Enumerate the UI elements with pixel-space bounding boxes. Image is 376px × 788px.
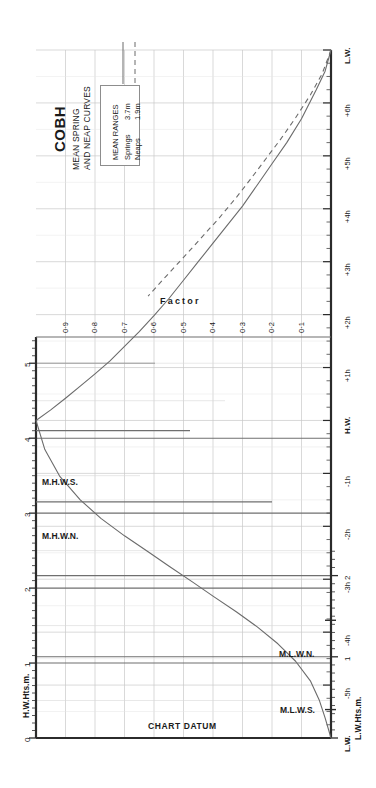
chart-datum-label: CHART DATUM — [148, 722, 217, 731]
left-height-tick-4: 4 — [24, 438, 32, 442]
marker-label-mlwn: M.L.W.N. — [279, 650, 314, 659]
factor-tick-08: 0·8 — [91, 322, 99, 333]
marker-label-mhws: M.H.W.S. — [42, 478, 78, 487]
right-height-tick-0: 0 — [344, 738, 352, 742]
page-title: COBH — [52, 106, 67, 152]
left-height-tick-5: 5 — [24, 363, 32, 367]
right-height-tick-2: 2 — [344, 575, 352, 579]
tidal-curve-diagram: COBH MEAN SPRING AND NEAP CURVES MEAN RA… — [0, 0, 376, 788]
factor-tick-09: 0·9 — [62, 322, 70, 333]
factor-axis-title: Factor — [160, 297, 201, 306]
factor-tick-01: 0·1 — [298, 322, 306, 333]
time-label--4h: -4h — [344, 635, 352, 646]
factor-tick-03: 0·3 — [239, 322, 247, 333]
time-label-+4h: +4h — [344, 210, 352, 223]
legend-row-springs-name: Springs — [124, 135, 132, 160]
subtitle-line-1: MEAN SPRING — [72, 108, 81, 170]
height-marker-lines — [36, 431, 336, 710]
time-label-+6h: +6h — [344, 104, 352, 117]
subtitle-line-2: AND NEAP CURVES — [83, 86, 92, 170]
left-height-tick-3: 3 — [24, 513, 32, 517]
right-axis-title: L.W.Hts.m. — [354, 697, 363, 740]
left-axis-title: H.W.Hts.m. — [22, 674, 31, 718]
factor-tick-02: 0·2 — [268, 322, 276, 333]
right-height-tick-1: 1 — [344, 656, 352, 660]
marker-label-mlws: M.L.W.S. — [280, 706, 315, 715]
time-label-+2h: +2h — [344, 316, 352, 329]
time-label-hw: H.W. — [344, 417, 352, 434]
time-label-+3h: +3h — [344, 263, 352, 276]
factor-tick-07: 0·7 — [121, 322, 129, 333]
legend-title: MEAN RANGES — [112, 105, 120, 160]
time-label-+5h: +5h — [344, 157, 352, 170]
left-height-tick-2: 2 — [24, 588, 32, 592]
legend-row-neaps-name: Neaps — [134, 138, 142, 160]
left-height-tick-0: 0 — [24, 738, 32, 742]
factor-tick-06: 0·6 — [150, 322, 158, 333]
time-label-+1h: +1h — [344, 369, 352, 382]
legend-row-neaps-value: 1.9m — [134, 103, 142, 120]
time-label--5h: -5h — [344, 688, 352, 699]
time-label-lw: L.W. — [344, 48, 352, 64]
left-height-tick-1: 1 — [24, 663, 32, 667]
factor-tick-04: 0·4 — [209, 322, 217, 333]
legend-sample-lines — [115, 40, 145, 86]
time-label--2h: -2h — [344, 529, 352, 540]
factor-tick-05: 0·5 — [180, 322, 188, 333]
marker-label-mhwn: M.H.W.N. — [42, 532, 78, 541]
time-label--3h: -3h — [344, 582, 352, 593]
time-label--1h: -1h — [344, 477, 352, 488]
legend-box: MEAN RANGES Springs 3.7m Neaps 1.9m — [100, 85, 140, 166]
legend-row-springs-value: 3.7m — [124, 103, 132, 120]
